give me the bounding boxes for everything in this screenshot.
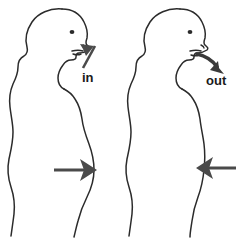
- diagram-canvas: in: [0, 0, 236, 238]
- inhale-mouth-detail: [72, 50, 83, 51]
- inhale-lip-detail: [73, 54, 81, 55]
- inhale-eye-icon: [70, 30, 75, 34]
- inhale-label: in: [82, 70, 94, 85]
- exhale-eye-icon: [188, 30, 193, 34]
- exhale-mouth-detail: [190, 50, 201, 51]
- breathing-diagram: in: [0, 0, 236, 238]
- exhale-label: out: [206, 73, 227, 88]
